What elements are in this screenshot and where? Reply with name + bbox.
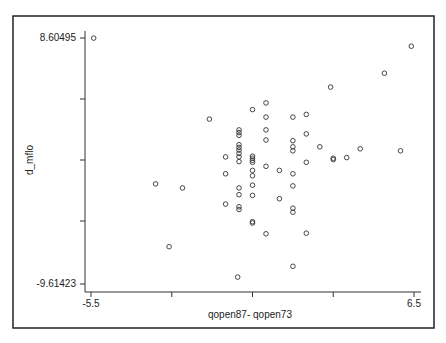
x-axis-label: qopen87- qopen73 — [208, 309, 292, 320]
data-point — [304, 231, 309, 236]
data-point — [291, 172, 296, 177]
data-point — [237, 159, 242, 164]
data-point — [291, 115, 296, 120]
y-axis-label: d_mflo — [24, 145, 35, 175]
y-ticks — [80, 38, 85, 284]
y-tick-label-bottom: -9.61423 — [37, 278, 77, 289]
data-point — [328, 85, 333, 90]
outer-frame — [13, 16, 434, 328]
data-points — [91, 36, 413, 280]
data-point — [291, 138, 296, 143]
data-point — [250, 193, 255, 198]
data-point — [344, 155, 349, 160]
data-point — [153, 182, 158, 187]
data-point — [250, 174, 255, 179]
data-point — [167, 244, 172, 249]
data-point — [277, 168, 282, 173]
data-point — [264, 101, 269, 106]
data-point — [264, 232, 269, 237]
data-point — [223, 202, 228, 207]
scatter-chart: 8.60495 -9.61423 -5.5 6.5 qopen87- qopen… — [0, 0, 446, 343]
data-point — [409, 44, 414, 49]
data-point — [207, 117, 212, 122]
data-point — [264, 138, 269, 143]
data-point — [237, 192, 242, 197]
data-point — [277, 196, 282, 201]
data-point — [250, 168, 255, 173]
data-point — [237, 155, 242, 160]
data-point — [291, 184, 296, 189]
data-point — [382, 71, 387, 76]
x-ticks — [91, 292, 414, 297]
x-tick-label-left: -5.5 — [82, 298, 100, 309]
data-point — [264, 164, 269, 169]
data-point — [250, 107, 255, 112]
data-point — [304, 160, 309, 165]
data-point — [235, 275, 240, 280]
data-point — [398, 149, 403, 154]
data-point — [250, 183, 255, 188]
data-point — [237, 186, 242, 191]
data-point — [304, 132, 309, 137]
data-point — [304, 112, 309, 117]
data-point — [358, 147, 363, 152]
data-point — [318, 145, 323, 150]
data-point — [180, 186, 185, 191]
x-tick-label-right: 6.5 — [407, 298, 421, 309]
data-point — [223, 155, 228, 160]
axes — [85, 31, 421, 292]
data-point — [91, 36, 96, 41]
data-point — [291, 264, 296, 269]
data-point — [264, 128, 269, 133]
y-tick-label-top: 8.60495 — [40, 32, 77, 43]
data-point — [264, 115, 269, 120]
data-point — [223, 172, 228, 177]
